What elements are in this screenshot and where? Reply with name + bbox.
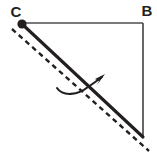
rotation-arrowhead: [95, 74, 105, 85]
geometry-diagram-canvas: C B: [0, 0, 157, 153]
vertex-label-C: C: [11, 3, 22, 20]
edge-hypotenuse-CA: [22, 24, 143, 137]
vertex-dot-C: [17, 19, 26, 28]
dashed-image-segment: [12, 29, 149, 151]
geometry-figure: C B: [0, 0, 157, 153]
vertex-label-B: B: [142, 2, 153, 19]
